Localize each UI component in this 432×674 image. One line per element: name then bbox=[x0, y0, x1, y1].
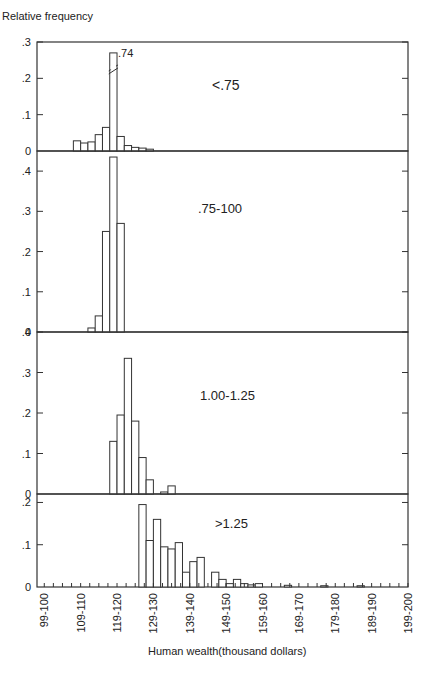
histogram-bar bbox=[212, 572, 219, 587]
histogram-bar bbox=[88, 142, 95, 151]
panel-label: >1.25 bbox=[215, 516, 248, 531]
x-tick-label: 179-180 bbox=[329, 593, 341, 633]
histogram-bar bbox=[190, 562, 197, 587]
histogram-bar bbox=[248, 585, 255, 587]
histogram-bar bbox=[168, 549, 175, 587]
panel-4: 0.1.2>1.25 bbox=[22, 494, 408, 593]
x-axis: 99-100109-110119-120129-130139-140149-15… bbox=[38, 583, 414, 633]
y-tick-label: .3 bbox=[22, 205, 31, 217]
x-tick-label: 199-200 bbox=[402, 593, 414, 633]
y-axis-label: Relative frequency bbox=[2, 10, 94, 22]
x-axis-label: Human wealth(thousand dollars) bbox=[148, 645, 306, 657]
histogram-bar bbox=[95, 135, 102, 151]
x-tick-label: 189-190 bbox=[366, 593, 378, 633]
x-tick-label: 119-120 bbox=[111, 593, 123, 633]
histogram-chart: Relative frequency 0.1.2.3.74<.750.1.2.3… bbox=[0, 0, 432, 674]
histogram-bar bbox=[161, 547, 168, 587]
panel-2: 0.1.2.3.4.75-100 bbox=[22, 151, 408, 338]
y-tick-label: .4 bbox=[22, 165, 31, 177]
y-tick-label: .4 bbox=[22, 326, 31, 338]
y-tick-label: 0 bbox=[25, 145, 31, 157]
histogram-bar bbox=[226, 584, 233, 587]
panel-label: 1.00-1.25 bbox=[200, 388, 255, 403]
x-tick-label: 169-170 bbox=[293, 593, 305, 633]
histogram-bar bbox=[110, 441, 117, 494]
histogram-bar bbox=[182, 572, 189, 587]
histogram-bar bbox=[139, 458, 146, 494]
histogram-bar bbox=[81, 143, 88, 151]
y-tick-label: .3 bbox=[22, 367, 31, 379]
histogram-bar bbox=[146, 480, 153, 494]
y-tick-label: .1 bbox=[22, 286, 31, 298]
panel-label: .75-100 bbox=[198, 201, 242, 216]
histogram-bar bbox=[321, 586, 328, 587]
histogram-bar bbox=[255, 584, 262, 587]
histogram-bar bbox=[197, 557, 204, 587]
histogram-bar bbox=[102, 127, 109, 151]
histogram-bar bbox=[110, 157, 117, 332]
histogram-bar bbox=[132, 421, 139, 494]
histogram-bar bbox=[168, 486, 175, 494]
histogram-bar bbox=[124, 146, 131, 151]
y-tick-label: .2 bbox=[22, 407, 31, 419]
histogram-bar bbox=[102, 231, 109, 332]
histogram-bar bbox=[88, 328, 95, 332]
panels-group: 0.1.2.3.74<.750.1.2.3.4.75-1000.1.2.3.41… bbox=[22, 36, 408, 593]
panel-3: 0.1.2.3.41.00-1.25 bbox=[22, 326, 408, 500]
x-tick-label: 139-140 bbox=[184, 593, 196, 633]
x-tick-label: 109-110 bbox=[75, 593, 87, 633]
histogram-bar bbox=[357, 586, 364, 587]
histogram-bar bbox=[117, 223, 124, 332]
x-tick-label: 149-150 bbox=[220, 593, 232, 633]
y-tick-label: .3 bbox=[22, 36, 31, 48]
histogram-bar bbox=[117, 415, 124, 494]
histogram-bar bbox=[284, 585, 291, 587]
x-tick-label: 99-100 bbox=[38, 593, 50, 627]
y-tick-label: .1 bbox=[22, 448, 31, 460]
y-tick-label: .2 bbox=[22, 72, 31, 84]
histogram-bar bbox=[124, 358, 131, 494]
histogram-bar bbox=[219, 579, 226, 587]
histogram-bar bbox=[73, 141, 80, 151]
histogram-bar bbox=[95, 316, 102, 332]
panel-1: 0.1.2.3.74<.75 bbox=[22, 36, 408, 157]
y-tick-label: 0 bbox=[25, 581, 31, 593]
y-tick-label: .2 bbox=[22, 496, 31, 508]
histogram-bar bbox=[153, 519, 160, 587]
histogram-bar bbox=[175, 543, 182, 587]
histogram-bar bbox=[139, 505, 146, 587]
truncated-bar-annotation: .74 bbox=[118, 47, 133, 59]
y-tick-label: .1 bbox=[22, 539, 31, 551]
panel-label: <.75 bbox=[212, 77, 240, 93]
x-tick-label: 129-130 bbox=[147, 593, 159, 633]
histogram-bar bbox=[117, 136, 124, 151]
histogram-bar bbox=[233, 579, 240, 587]
histogram-bar bbox=[146, 541, 153, 588]
y-tick-label: .1 bbox=[22, 109, 31, 121]
y-tick-label: .2 bbox=[22, 246, 31, 258]
x-tick-label: 159-160 bbox=[257, 593, 269, 633]
